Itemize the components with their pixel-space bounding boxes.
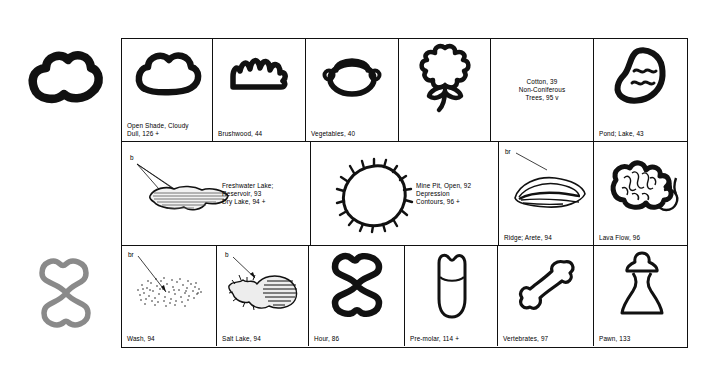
cell-label: Mine Pit, Open, 92 Depression Contours, … bbox=[416, 181, 471, 206]
cell-mine-pit: Mine Pit, Open, 92 Depression Contours, … bbox=[311, 142, 499, 245]
cell-label: Ridge; Arete, 94 bbox=[504, 234, 552, 242]
bone-icon bbox=[498, 248, 593, 322]
hourglass-icon bbox=[309, 248, 404, 322]
symbol-grid: Open Shade, Cloudy Dull, 126 + Brushwood… bbox=[121, 38, 688, 348]
cell-label: Freshwater Lake; Reservoir, 93 Dry Lake,… bbox=[222, 181, 273, 206]
lava-flow-icon bbox=[602, 158, 684, 218]
cell-label: Pond; Lake, 43 bbox=[599, 130, 644, 138]
cell-pond-lake: Pond; Lake, 43 bbox=[594, 39, 687, 141]
cell-freshwater-lake: b bbox=[122, 142, 311, 245]
ridge-icon bbox=[507, 166, 589, 214]
table-row: b bbox=[122, 142, 687, 246]
cell-label: Wash, 94 bbox=[127, 335, 155, 343]
stipple-wash-icon bbox=[130, 272, 212, 310]
cell-salt-lake: b bbox=[217, 246, 309, 346]
cell-label: Salt Lake, 94 bbox=[222, 335, 261, 343]
cell-label: Brushwood, 44 bbox=[218, 130, 262, 138]
depression-contour-icon bbox=[335, 158, 413, 232]
cell-label: Cotton, 39 Non-Coniferous Trees, 95 v bbox=[491, 78, 593, 103]
cell-lava-flow: Lava Flow, 96 bbox=[594, 142, 689, 245]
cell-open-shade: Open Shade, Cloudy Dull, 126 + bbox=[122, 39, 213, 141]
cotton-boll-icon bbox=[399, 41, 490, 115]
cell-pre-molar: Pre-molar, 114 + bbox=[405, 246, 498, 346]
cell-label: Vertebrates, 97 bbox=[503, 335, 548, 343]
cell-cotton-art bbox=[399, 39, 491, 141]
cloud-icon bbox=[122, 41, 212, 107]
vegetables-icon bbox=[306, 41, 398, 107]
pond-icon bbox=[594, 41, 687, 115]
cell-label: Hour, 86 bbox=[314, 335, 339, 343]
table-row: Open Shade, Cloudy Dull, 126 + Brushwood… bbox=[122, 39, 687, 142]
cell-brushwood: Brushwood, 44 bbox=[213, 39, 306, 141]
cell-wash: br bbox=[122, 246, 217, 346]
cell-label: Vegetables, 40 bbox=[311, 130, 355, 138]
hatched-lake-icon bbox=[144, 174, 234, 216]
cell-label: Pre-molar, 114 + bbox=[410, 335, 459, 343]
cell-label: Lava Flow, 96 bbox=[599, 234, 640, 242]
salt-lake-icon bbox=[223, 268, 303, 314]
table-row: br bbox=[122, 246, 687, 346]
cell-vegetables: Vegetables, 40 bbox=[306, 39, 399, 141]
margin-key-cloud-icon bbox=[26, 48, 106, 110]
cell-label: Pawn, 133 bbox=[599, 335, 630, 343]
shape-reference-chart: Open Shade, Cloudy Dull, 126 + Brushwood… bbox=[0, 0, 724, 381]
margin-key-hourglass-icon bbox=[32, 252, 100, 334]
pawn-icon bbox=[594, 248, 689, 322]
cell-cotton-text: Cotton, 39 Non-Coniferous Trees, 95 v bbox=[491, 39, 594, 141]
cell-label: Open Shade, Cloudy Dull, 126 + bbox=[127, 122, 189, 138]
cell-pawn: Pawn, 133 bbox=[594, 246, 689, 346]
premolar-tooth-icon bbox=[405, 248, 497, 322]
cell-hour: Hour, 86 bbox=[309, 246, 405, 346]
cell-ridge-arete: br Ridge; Arete, 94 bbox=[499, 142, 594, 245]
cell-vertebrates: Vertebrates, 97 bbox=[498, 246, 594, 346]
brushwood-icon bbox=[213, 41, 305, 107]
